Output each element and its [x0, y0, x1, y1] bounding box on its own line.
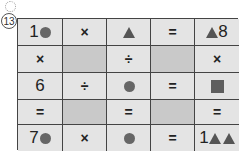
cell-r4-c4: 1	[195, 125, 239, 151]
operator-multiply: ×	[80, 24, 88, 40]
operator-equals: =	[213, 104, 221, 120]
cell-r3-c4: =	[195, 100, 239, 125]
cell-r4-c2	[107, 125, 151, 151]
sun-icon	[5, 1, 16, 12]
operator-equals: =	[36, 104, 44, 120]
cell-number: 6	[35, 76, 44, 96]
blank-cell	[151, 46, 195, 73]
cell-r1-c4: ×	[195, 46, 239, 73]
circle-icon	[40, 133, 51, 144]
blank-cell	[151, 100, 195, 125]
circle-icon	[124, 81, 135, 92]
circle-icon	[40, 27, 51, 38]
cell-r2-c2	[107, 73, 151, 100]
square-icon	[211, 80, 224, 93]
cell-number: 7	[29, 128, 38, 148]
cell-number: 1	[29, 22, 38, 42]
cell-r0-c0: 1	[18, 19, 63, 46]
cell-r0-c1: ×	[63, 19, 107, 46]
cell-r0-c3: =	[151, 19, 195, 46]
triangle-icon	[209, 133, 221, 144]
cell-r4-c3: =	[151, 125, 195, 151]
operator-equals: =	[168, 24, 176, 40]
cell-r3-c2: =	[107, 100, 151, 125]
triangle-icon	[223, 133, 235, 144]
puzzle-grid: 1 × = 8 × ÷ × 6 ÷ = = = = 7 × = 1	[17, 18, 238, 150]
operator-multiply: ×	[80, 130, 88, 146]
cell-r2-c3: =	[151, 73, 195, 100]
cell-number: 8	[218, 22, 227, 42]
operator-multiply: ×	[36, 51, 44, 67]
triangle-icon	[123, 27, 135, 38]
operator-multiply: ×	[213, 51, 221, 67]
cell-r4-c0: 7	[18, 125, 63, 151]
cell-number: 1	[199, 128, 208, 148]
circle-icon	[124, 133, 135, 144]
operator-equals: =	[168, 130, 176, 146]
cell-r3-c0: =	[18, 100, 63, 125]
triangle-icon	[206, 27, 218, 38]
blank-cell	[63, 100, 107, 125]
cell-r1-c0: ×	[18, 46, 63, 73]
cell-r0-c2	[107, 19, 151, 46]
cell-r2-c4	[195, 73, 239, 100]
problem-number: 13	[1, 13, 17, 29]
blank-cell	[63, 46, 107, 73]
operator-equals: =	[168, 78, 176, 94]
cell-r0-c4: 8	[195, 19, 239, 46]
cell-r4-c1: ×	[63, 125, 107, 151]
cell-r2-c1: ÷	[63, 73, 107, 100]
operator-divide: ÷	[81, 78, 89, 94]
cell-r2-c0: 6	[18, 73, 63, 100]
operator-divide: ÷	[125, 51, 133, 67]
operator-equals: =	[124, 104, 132, 120]
cell-r1-c2: ÷	[107, 46, 151, 73]
